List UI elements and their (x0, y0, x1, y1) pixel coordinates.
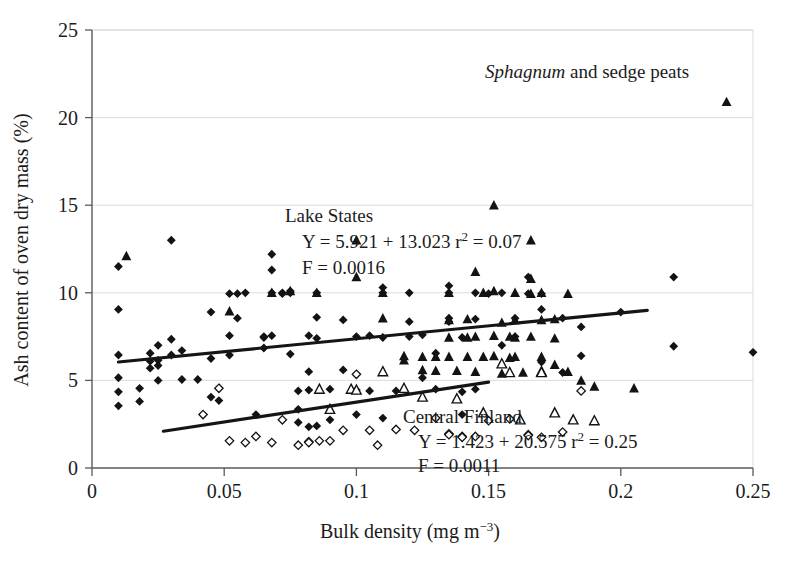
data-point (418, 365, 428, 374)
data-point (154, 361, 163, 370)
lake-states-equation: Y = 5.921 + 13.023 r2 = 0.07 (302, 229, 522, 252)
data-point (326, 437, 334, 445)
data-point (207, 393, 216, 402)
data-point (365, 387, 374, 396)
data-point (304, 386, 313, 395)
y-tick-label-5: 25 (58, 19, 78, 41)
data-point (267, 266, 276, 275)
data-point (470, 366, 480, 375)
data-point (225, 331, 234, 340)
lake-states-fstat: F = 0.0016 (302, 257, 385, 278)
data-point (431, 366, 441, 375)
data-point (489, 200, 499, 209)
data-point (463, 352, 473, 361)
x-tick-label-2: 0.1 (344, 480, 369, 502)
data-point (577, 387, 585, 395)
data-point (378, 313, 388, 322)
data-point (146, 364, 155, 373)
data-point (577, 351, 586, 360)
series-filled-diamond (114, 236, 757, 434)
data-point (444, 315, 454, 324)
data-point (550, 408, 560, 417)
data-points-group (114, 97, 757, 450)
data-point (405, 317, 414, 326)
data-point (669, 342, 678, 351)
data-point (471, 315, 480, 324)
data-point (550, 359, 560, 368)
data-point (114, 262, 123, 271)
data-point (590, 416, 600, 425)
data-point (373, 441, 381, 449)
data-point (568, 415, 578, 424)
data-point (444, 352, 454, 361)
data-point (267, 331, 276, 340)
data-point (207, 308, 216, 317)
central-finland-equation: Y = 1.423 + 20.575 r2 = 0.25 (418, 429, 638, 452)
data-point (326, 385, 335, 394)
data-point (470, 331, 480, 340)
data-point (497, 288, 506, 297)
data-point (418, 352, 428, 361)
data-point (268, 438, 276, 446)
x-tick-labels-group: 00.050.10.150.20.25 (87, 480, 771, 502)
data-point (418, 373, 427, 382)
data-point (537, 305, 546, 314)
data-point (399, 383, 409, 392)
data-point (669, 273, 678, 282)
data-point (526, 235, 536, 244)
data-point (294, 387, 303, 396)
data-point (193, 375, 202, 384)
data-point (378, 414, 387, 423)
chart-title: Sphagnum and sedge peats (485, 61, 689, 82)
data-point (405, 288, 414, 297)
data-point (505, 368, 515, 377)
data-point (146, 349, 155, 358)
data-point (589, 381, 599, 390)
data-point (629, 383, 639, 392)
data-point (114, 387, 123, 396)
data-point (178, 346, 187, 355)
lake-states-label: Lake States (285, 205, 373, 226)
central-finland-fstat: F = 0.0011 (418, 455, 500, 476)
data-point (294, 418, 303, 427)
data-point (135, 397, 144, 406)
data-point (577, 323, 586, 332)
annotation-lake-states: Lake States Y = 5.921 + 13.023 r2 = 0.07… (285, 205, 522, 278)
y-tick-label-3: 15 (58, 194, 78, 216)
data-point (489, 351, 499, 360)
data-point (114, 401, 123, 410)
gridlines-group (92, 30, 753, 380)
data-point (537, 288, 547, 297)
x-tick-label-4: 0.2 (608, 480, 633, 502)
y-tick-label-0: 0 (68, 457, 78, 479)
central-finland-label: Central Finland (403, 406, 522, 427)
data-point (154, 376, 163, 385)
y-tick-labels-group: 0510152025 (58, 19, 78, 479)
data-point (252, 432, 260, 440)
data-point (215, 396, 224, 405)
data-point (167, 335, 176, 344)
data-point (339, 426, 347, 434)
data-point (225, 289, 234, 298)
data-point (114, 373, 123, 382)
data-point (550, 333, 560, 342)
data-point (749, 348, 758, 357)
data-point (114, 305, 123, 314)
data-point (199, 410, 207, 418)
x-tick-label-5: 0.25 (736, 480, 771, 502)
data-point (304, 331, 313, 340)
data-point (294, 441, 302, 449)
data-point (178, 375, 187, 384)
chart-canvas: 00.050.10.150.20.25 0510152025 Bulk dens… (0, 0, 796, 562)
y-tick-label-1: 5 (68, 369, 78, 391)
data-point (497, 341, 506, 350)
data-point (233, 289, 242, 298)
data-point (339, 365, 348, 374)
data-point (478, 352, 488, 361)
data-point (286, 350, 295, 359)
data-point (278, 416, 286, 424)
data-point (510, 288, 520, 297)
x-axis-title: Bulk density (mg m−3) (320, 519, 500, 543)
data-point (225, 437, 233, 445)
y-tick-label-2: 10 (58, 282, 78, 304)
